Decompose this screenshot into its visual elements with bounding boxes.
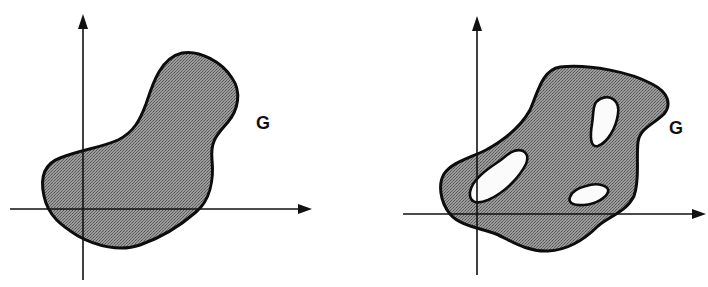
panel-multiply-connected: G: [403, 16, 706, 275]
region-g-multiply-connected: [441, 66, 668, 251]
x-axis-arrow-icon-left: [298, 204, 312, 214]
region-label-left: G: [256, 113, 270, 133]
panel-simply-connected: G: [10, 14, 312, 280]
y-axis-arrow-icon-left: [78, 14, 88, 29]
region-g-simply-connected: [43, 53, 238, 248]
region-label-right: G: [669, 118, 683, 138]
x-axis-arrow-icon-right: [692, 209, 706, 219]
figure-canvas: G G: [0, 0, 708, 287]
y-axis-arrow-icon-right: [472, 16, 482, 31]
